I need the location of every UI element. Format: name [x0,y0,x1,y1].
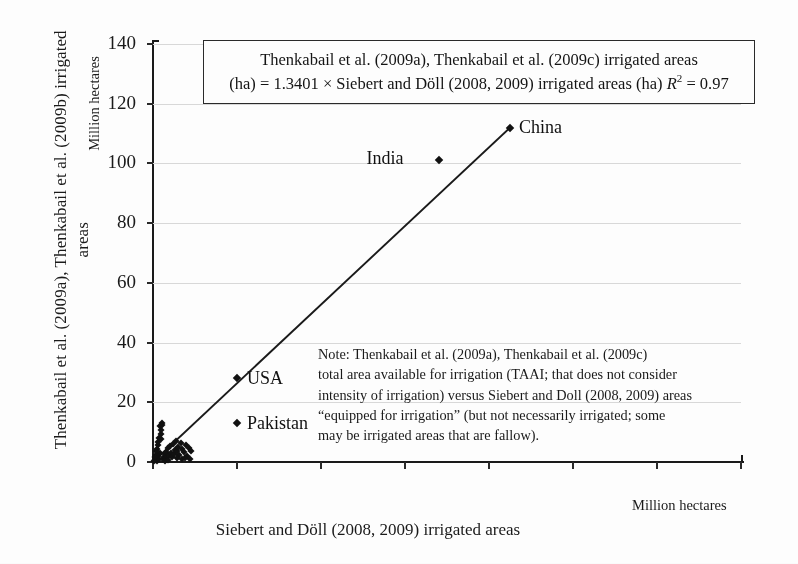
y-tick-label-20: 20 [117,390,136,412]
x-tick-40: 40 [320,462,322,469]
y-axis-units-label: Million hectares [86,4,103,204]
point-label-usa: USA [247,368,283,389]
note-line-3: intensity of irrigation) versus Siebert … [318,385,738,405]
note-line-5: may be irrigated areas that are fallow). [318,425,738,445]
x-tick-100: 100 [572,462,574,469]
y-tick-label-80: 80 [117,211,136,233]
y-tick-label-0: 0 [127,450,137,472]
y-tick-label-40: 40 [117,330,136,352]
equation-box: Thenkabail et al. (2009a), Thenkabail et… [203,40,755,104]
note-line-1: Note: Thenkabail et al. (2009a), Thenkab… [318,344,738,364]
note-line-4: “equipped for irrigation” (but not neces… [318,405,738,425]
x-tick-120: 120 [656,462,658,469]
x-axis-units-label: Million hectares [632,497,727,514]
note-line-2: total area available for irrigation (TAA… [318,364,738,384]
x-tick-80: 80 [488,462,490,469]
x-tick-20: 20 [236,462,238,469]
x-tick-140: 140 [740,462,742,469]
r-squared-value: = 0.97 [682,74,728,93]
x-axis-title: Siebert and Döll (2008, 2009) irrigated … [153,520,583,540]
equation-line-2: (ha) = 1.3401 × Siebert and Döll (2008, … [229,74,666,93]
figure-scatter-irrigated-areas: Thenkabail et al. (2009a), Thenkabail et… [0,0,798,564]
y-tick-label-60: 60 [117,270,136,292]
r-squared-symbol: R [667,74,677,93]
point-label-india: India [367,148,404,169]
x-tick-60: 60 [404,462,406,469]
point-label-china: China [519,117,562,138]
note-text: Note: Thenkabail et al. (2009a), Thenkab… [318,344,738,445]
equation-line-1: Thenkabail et al. (2009a), Thenkabail et… [260,50,698,69]
y-tick-label-140: 140 [108,32,137,54]
point-label-pakistan: Pakistan [247,413,308,434]
y-tick-label-100: 100 [108,151,137,173]
y-tick-label-120: 120 [108,91,137,113]
y-axis-top-cap [152,40,159,42]
